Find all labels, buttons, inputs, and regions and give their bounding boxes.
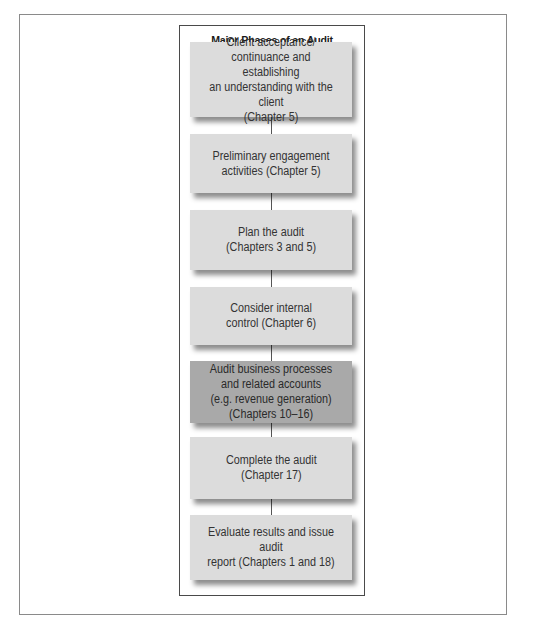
- phase-client-acceptance: Client acceptance/ continuance and estab…: [190, 42, 352, 117]
- phase-audit-business-processes: Audit business processes and related acc…: [190, 361, 352, 423]
- connector-2-3: [271, 193, 272, 210]
- connector-4-5: [271, 345, 272, 361]
- phase-label: Client acceptance/ continuance and estab…: [202, 35, 341, 125]
- phase-label: Consider internal control (Chapter 6): [226, 301, 316, 331]
- phase-plan-audit: Plan the audit (Chapters 3 and 5): [190, 210, 352, 270]
- phase-label: Audit business processes and related acc…: [210, 362, 332, 422]
- phase-label: Preliminary engagement activities (Chapt…: [212, 149, 329, 179]
- phase-label: Plan the audit (Chapters 3 and 5): [226, 225, 316, 255]
- connector-5-6: [271, 423, 272, 437]
- phase-internal-control: Consider internal control (Chapter 6): [190, 287, 352, 345]
- connector-6-7: [271, 499, 272, 515]
- phase-complete-audit: Complete the audit (Chapter 17): [190, 437, 352, 499]
- phase-label: Evaluate results and issue audit report …: [202, 525, 341, 570]
- phase-label: Complete the audit (Chapter 17): [226, 453, 317, 483]
- phase-evaluate-results: Evaluate results and issue audit report …: [190, 515, 352, 580]
- phase-preliminary-engagement: Preliminary engagement activities (Chapt…: [190, 134, 352, 193]
- connector-3-4: [271, 270, 272, 287]
